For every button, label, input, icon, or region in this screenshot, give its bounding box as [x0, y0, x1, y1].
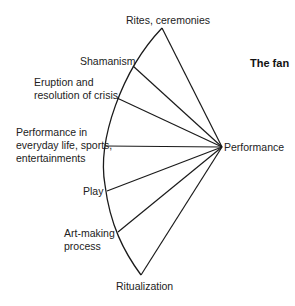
label-performance-hub: Performance [224, 141, 284, 154]
label-ritualization: Ritualization [116, 280, 173, 293]
spoke-6 [141, 147, 222, 275]
spoke-0 [162, 28, 222, 147]
label-everyday-line1: Performance in [16, 126, 87, 139]
label-play: Play [83, 185, 103, 198]
label-everyday-line2: everyday life, sports, [16, 139, 112, 152]
label-eruption-line1: Eruption and [34, 76, 94, 89]
label-rites-ceremonies: Rites, ceremonies [126, 14, 210, 27]
spoke-3 [105, 146, 222, 147]
diagram-title: The fan [250, 57, 289, 69]
label-everyday-line3: entertainments [16, 152, 85, 165]
label-art-making-line2: process [64, 240, 101, 253]
spoke-5 [118, 147, 222, 232]
label-shamanism: Shamanism [80, 55, 135, 68]
label-eruption-line2: resolution of crisis [34, 89, 118, 102]
spoke-1 [133, 66, 222, 147]
label-art-making-line1: Art-making [64, 227, 115, 240]
spoke-4 [107, 147, 222, 191]
spoke-2 [117, 98, 222, 147]
